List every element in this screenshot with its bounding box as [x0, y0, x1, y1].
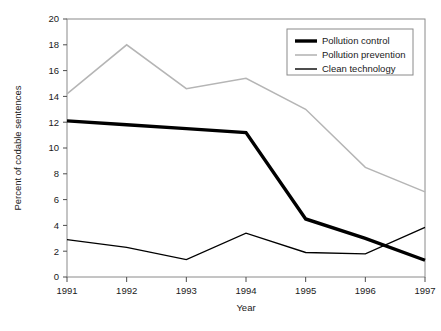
- y-axis-title: Percent of codable sentences: [12, 85, 23, 210]
- x-tick-label: 1992: [116, 285, 137, 296]
- x-tick-label: 1994: [235, 285, 256, 296]
- y-tick-label: 8: [54, 168, 59, 179]
- y-tick-label: 6: [54, 194, 59, 205]
- x-tick-label: 1993: [176, 285, 197, 296]
- legend-label: Pollution prevention: [322, 49, 405, 60]
- y-tick-label: 0: [54, 271, 59, 282]
- y-tick-label: 18: [48, 39, 59, 50]
- legend-items: Pollution controlPollution preventionCle…: [295, 35, 405, 74]
- y-tick-label: 2: [54, 246, 59, 257]
- y-tick-label: 12: [48, 117, 59, 128]
- chart-container: 02468101214161820 1991199219931994199519…: [0, 0, 441, 331]
- x-tick-label: 1991: [56, 285, 77, 296]
- legend-label: Clean technology: [322, 63, 396, 74]
- x-tick-label: 1996: [355, 285, 376, 296]
- legend-label: Pollution control: [322, 35, 390, 46]
- y-tick-label: 14: [48, 91, 59, 102]
- y-tick-label: 10: [48, 142, 59, 153]
- x-tick-label: 1997: [414, 285, 435, 296]
- x-tick-label: 1995: [295, 285, 316, 296]
- y-tick-label: 16: [48, 65, 59, 76]
- y-tick-label: 4: [54, 220, 59, 231]
- line-chart: 02468101214161820 1991199219931994199519…: [0, 0, 441, 331]
- chart-legend: Pollution controlPollution preventionCle…: [287, 29, 413, 75]
- x-axis-title: Year: [236, 302, 255, 313]
- y-tick-label: 20: [48, 13, 59, 24]
- y-axis-ticks: 02468101214161820: [48, 13, 67, 282]
- x-axis-ticks: 1991199219931994199519961997: [56, 277, 435, 296]
